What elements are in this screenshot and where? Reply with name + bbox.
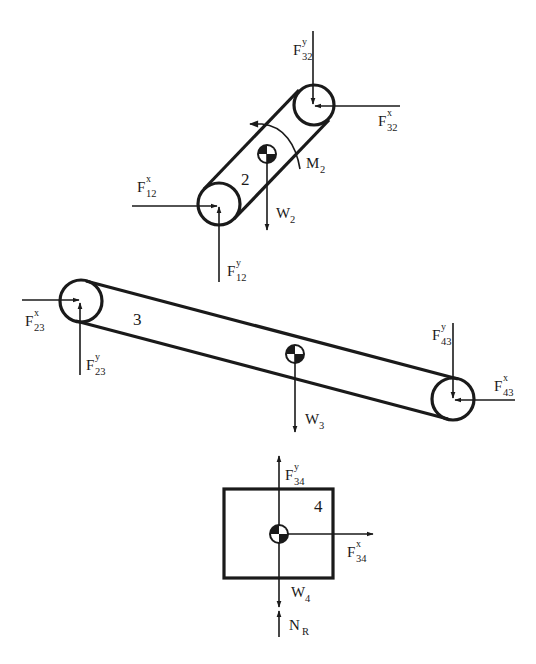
svg-text:2: 2 [320,164,325,175]
svg-text:F: F [378,113,386,129]
label-F43y: F y 43 [432,321,452,347]
svg-text:23: 23 [34,322,45,333]
svg-text:y: y [95,351,100,362]
svg-text:M: M [306,155,319,171]
svg-text:F: F [86,357,94,373]
svg-text:F: F [227,263,235,279]
svg-text:y: y [441,321,446,332]
link-3-number: 3 [133,310,142,329]
svg-text:43: 43 [441,336,452,347]
link-3-edge-lower [76,321,448,419]
svg-text:R: R [302,626,309,637]
label-W3: W 3 [305,411,324,431]
svg-text:x: x [34,307,39,318]
svg-text:x: x [503,372,508,383]
svg-text:y: y [294,461,299,472]
svg-text:F: F [25,313,33,329]
svg-text:32: 32 [387,122,398,133]
link-2-number: 2 [241,170,250,189]
label-F34x: F x 34 [347,538,367,564]
com-symbol-block-4 [269,524,289,544]
svg-text:W: W [305,411,320,427]
link-2-edge-upper [204,90,299,189]
link-3-pin-left [60,280,102,322]
label-W4: W 4 [291,584,311,604]
svg-text:W: W [276,205,291,221]
block-4-number: 4 [314,497,323,516]
link-2: 2 F y 32 F x 32 F x 12 F y 12 W 2 M 2 [132,31,400,283]
svg-text:12: 12 [236,272,247,283]
free-body-diagram: 2 F y 32 F x 32 F x 12 F y 12 W 2 M 2 [0,0,536,664]
label-F43x: F x 43 [494,372,514,398]
link-3: 3 F x 23 F y 23 F y 43 F x 43 W 3 [22,280,515,432]
label-F32y: F y 32 [293,36,313,62]
link-3-edge-upper [86,281,458,379]
svg-text:F: F [293,42,301,58]
label-NR: N R [289,617,309,637]
label-M2: M 2 [306,155,325,175]
svg-text:F: F [137,179,145,195]
block-4: 4 F y 34 F x 34 W 4 N R [224,456,373,637]
svg-text:F: F [432,327,440,343]
svg-text:x: x [356,538,361,549]
svg-text:F: F [494,378,502,394]
svg-text:43: 43 [503,387,514,398]
svg-text:34: 34 [356,553,367,564]
svg-text:x: x [387,107,392,118]
svg-text:x: x [146,173,151,184]
svg-text:F: F [347,544,355,560]
svg-text:y: y [302,36,307,47]
svg-text:F: F [285,467,293,483]
label-F23y: F y 23 [86,351,106,377]
svg-text:32: 32 [302,51,313,62]
svg-text:2: 2 [290,214,295,225]
link-2-pin-top [294,85,334,125]
label-F12y: F y 12 [227,257,247,283]
svg-text:23: 23 [95,366,106,377]
label-F34y: F y 34 [285,461,305,487]
svg-text:y: y [236,257,241,268]
svg-text:W: W [291,584,306,600]
svg-text:3: 3 [319,420,324,431]
label-F23x: F x 23 [25,307,45,333]
svg-text:N: N [289,617,300,633]
label-W2: W 2 [276,205,295,225]
moment-arrow-M2 [250,124,300,169]
svg-text:4: 4 [305,593,311,604]
svg-text:34: 34 [294,476,305,487]
label-F12x: F x 12 [137,173,157,199]
svg-text:12: 12 [146,188,157,199]
label-F32x: F x 32 [378,107,398,133]
